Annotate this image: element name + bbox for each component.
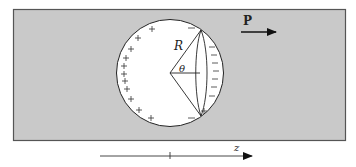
radius-label: R — [173, 39, 183, 53]
z-axis-label: z — [233, 142, 240, 153]
polarization-label: P — [243, 14, 252, 28]
diagram-canvas: R θ P z — [0, 0, 356, 167]
angle-label: θ — [179, 63, 185, 74]
